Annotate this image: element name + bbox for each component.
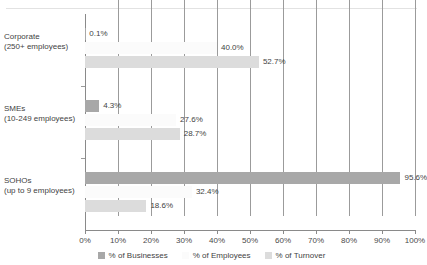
- x-axis-tick: [382, 231, 383, 234]
- category-label-line1: SMEs: [4, 104, 25, 113]
- bar-value-label: 28.7%: [184, 128, 207, 140]
- bar: [85, 56, 259, 68]
- x-axis-tick: [415, 231, 416, 234]
- bar: [85, 172, 400, 184]
- bar-value-label: 18.6%: [150, 200, 173, 212]
- x-axis-tick: [151, 231, 152, 234]
- x-axis-tick: [118, 231, 119, 234]
- y-axis-category-label: SOHOs(up to 9 employees): [4, 176, 82, 196]
- bar-value-label: 95.6%: [404, 172, 427, 184]
- legend-swatch-icon: [265, 252, 272, 259]
- y-axis-category-label: SMEs(10-249 employees): [4, 104, 82, 124]
- legend-swatch-icon: [98, 252, 105, 259]
- x-axis-tick-label: 80%: [341, 236, 357, 245]
- legend-label: % of Employees: [193, 251, 251, 260]
- category-label-line2: (250+ employees): [4, 42, 82, 52]
- x-axis-tick-label: 90%: [374, 236, 390, 245]
- category-label-line2: (up to 9 employees): [4, 186, 82, 196]
- legend-swatch-icon: [182, 252, 189, 259]
- y-axis-category-label: Corporate(250+ employees): [4, 32, 82, 52]
- bar: [85, 28, 86, 40]
- x-axis-tick-label: 60%: [275, 236, 291, 245]
- category-label-line2: (10-249 employees): [4, 114, 82, 124]
- x-axis-tick: [250, 231, 251, 234]
- x-axis-tick-label: 30%: [176, 236, 192, 245]
- legend-item[interactable]: % of Turnover: [265, 251, 326, 260]
- y-axis-separator-tick: [81, 158, 85, 159]
- legend-item[interactable]: % of Businesses: [98, 251, 168, 260]
- x-axis-tick: [184, 231, 185, 234]
- x-axis-tick-label: 40%: [209, 236, 225, 245]
- header-divider: [6, 8, 417, 9]
- x-axis-tick: [349, 231, 350, 234]
- x-axis-tick: [217, 231, 218, 234]
- x-axis-tick-label: 70%: [308, 236, 324, 245]
- bar: [85, 128, 180, 140]
- cropped-title-remnant: [8, 0, 308, 4]
- x-axis-tick-label: 10%: [110, 236, 126, 245]
- x-axis-tick-label: 20%: [143, 236, 159, 245]
- bar-value-label: 27.6%: [180, 114, 203, 126]
- x-axis-tick-label: 0%: [79, 236, 91, 245]
- bar-value-label: 52.7%: [263, 56, 286, 68]
- y-axis-separator-tick: [81, 86, 85, 87]
- x-axis-tick: [283, 231, 284, 234]
- x-axis-tick: [316, 231, 317, 234]
- bar: [85, 100, 99, 112]
- bar-value-label: 4.3%: [103, 100, 121, 112]
- x-axis-tick-label: 50%: [242, 236, 258, 245]
- bar-value-label: 32.4%: [196, 186, 219, 198]
- chart-legend: % of Businesses% of Employees% of Turnov…: [0, 251, 423, 260]
- bar: [85, 42, 217, 54]
- bar-value-label: 0.1%: [89, 28, 107, 40]
- bar: [85, 114, 176, 126]
- legend-item[interactable]: % of Employees: [182, 251, 251, 260]
- x-axis-tick: [85, 231, 86, 234]
- category-label-line1: Corporate: [4, 32, 40, 41]
- bar-value-label: 40.0%: [221, 42, 244, 54]
- x-axis-tick-label: 100%: [405, 236, 425, 245]
- legend-label: % of Businesses: [109, 251, 168, 260]
- bar: [85, 186, 192, 198]
- category-label-line1: SOHOs: [4, 176, 32, 185]
- legend-label: % of Turnover: [276, 251, 326, 260]
- bar: [85, 200, 146, 212]
